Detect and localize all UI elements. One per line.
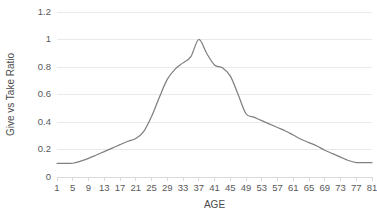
x-tick-label: 69 — [319, 182, 330, 193]
x-tick-label: 45 — [225, 182, 236, 193]
x-tick-label: 81 — [367, 182, 377, 193]
x-tick-label: 41 — [209, 182, 220, 193]
y-tick-label: 0.8 — [38, 61, 51, 72]
y-tick-label: 0.2 — [38, 143, 51, 154]
gridlines — [57, 12, 372, 177]
x-tick-label: 13 — [99, 182, 110, 193]
x-tick-label: 29 — [162, 182, 173, 193]
x-tick-label: 5 — [70, 182, 75, 193]
x-axis-tickmarks — [57, 177, 372, 181]
y-tick-label: 0.6 — [38, 88, 51, 99]
x-tick-label: 33 — [178, 182, 189, 193]
x-tick-label: 21 — [130, 182, 141, 193]
x-tick-label: 61 — [288, 182, 299, 193]
x-axis-tick-labels: 159131721252933374145495357616569737781 — [54, 182, 377, 193]
y-tick-label: 1.2 — [38, 6, 51, 17]
line-chart: 00.20.40.60.811.2 1591317212529333741454… — [0, 0, 377, 217]
x-tick-label: 1 — [54, 182, 59, 193]
x-axis-title: AGE — [204, 199, 225, 210]
x-tick-label: 9 — [86, 182, 91, 193]
series-line-give-vs-take-ratio — [57, 39, 372, 163]
chart-canvas: 00.20.40.60.811.2 1591317212529333741454… — [0, 0, 377, 217]
x-tick-label: 73 — [335, 182, 346, 193]
x-tick-label: 49 — [241, 182, 252, 193]
y-tick-label: 0.4 — [38, 116, 51, 127]
x-tick-label: 77 — [351, 182, 362, 193]
y-tick-label: 1 — [46, 33, 51, 44]
x-tick-label: 25 — [146, 182, 157, 193]
x-tick-label: 65 — [304, 182, 315, 193]
x-tick-label: 53 — [256, 182, 267, 193]
y-tick-label: 0 — [46, 171, 51, 182]
x-tick-label: 17 — [115, 182, 126, 193]
x-tick-label: 57 — [272, 182, 283, 193]
y-axis-tick-labels: 00.20.40.60.811.2 — [38, 6, 51, 182]
y-axis-title: Give vs Take Ratio — [5, 52, 16, 136]
x-tick-label: 37 — [193, 182, 204, 193]
